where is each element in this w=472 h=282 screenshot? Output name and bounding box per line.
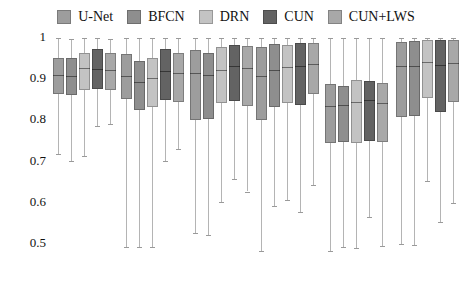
median-line (308, 64, 319, 65)
box-iqr-rect[interactable] (396, 42, 407, 117)
box-drn[interactable] (282, 0, 293, 282)
whisker-cap-lower (232, 179, 237, 180)
whisker-lower (414, 116, 415, 245)
box-group-4 (256, 0, 321, 282)
box-u-net[interactable] (396, 0, 407, 282)
box-u-net[interactable] (190, 0, 201, 282)
median-line (295, 66, 306, 67)
whisker-lower (356, 143, 357, 248)
whisker-cap-upper (272, 38, 277, 39)
box-iqr-rect[interactable] (364, 81, 375, 140)
box-iqr-rect[interactable] (325, 84, 336, 143)
box-bfcn[interactable] (269, 0, 280, 282)
box-cun-lws[interactable] (242, 0, 253, 282)
whisker-cap-upper (298, 38, 303, 39)
box-bfcn[interactable] (66, 0, 77, 282)
whisker-cap-lower (341, 247, 346, 248)
median-line (396, 66, 407, 67)
box-iqr-rect[interactable] (160, 49, 171, 99)
box-iqr-rect[interactable] (242, 46, 253, 106)
whisker-cap-lower (425, 181, 430, 182)
box-drn[interactable] (79, 0, 90, 282)
median-line (147, 78, 158, 79)
box-cun-lws[interactable] (173, 0, 184, 282)
median-line (448, 63, 459, 64)
whisker-cap-lower (193, 233, 198, 234)
box-cun[interactable] (295, 0, 306, 282)
whisker-upper (139, 38, 140, 61)
whisker-cap-upper (367, 38, 372, 39)
box-u-net[interactable] (121, 0, 132, 282)
box-bfcn[interactable] (203, 0, 214, 282)
median-line (422, 62, 433, 63)
whisker-cap-upper (311, 38, 316, 39)
whisker-cap-lower (438, 222, 443, 223)
box-iqr-rect[interactable] (256, 47, 267, 120)
box-iqr-rect[interactable] (338, 86, 349, 142)
box-iqr-rect[interactable] (105, 53, 116, 90)
box-iqr-rect[interactable] (448, 40, 459, 102)
box-iqr-rect[interactable] (269, 44, 280, 107)
median-line (242, 68, 253, 69)
box-iqr-rect[interactable] (282, 45, 293, 103)
box-iqr-rect[interactable] (295, 43, 306, 104)
whisker-cap-upper (412, 38, 417, 39)
box-cun-lws[interactable] (377, 0, 388, 282)
box-cun-lws[interactable] (448, 0, 459, 282)
whisker-lower (208, 119, 209, 234)
box-bfcn[interactable] (409, 0, 420, 282)
whisker-cap-lower (354, 248, 359, 249)
whisker-upper (221, 38, 222, 47)
whisker-cap-lower (285, 200, 290, 201)
whisker-upper (195, 38, 196, 50)
box-iqr-rect[interactable] (216, 47, 227, 103)
box-drn[interactable] (147, 0, 158, 282)
box-iqr-rect[interactable] (190, 50, 201, 120)
whisker-cap-lower (56, 154, 61, 155)
box-u-net[interactable] (325, 0, 336, 282)
box-iqr-rect[interactable] (134, 61, 145, 110)
box-cun[interactable] (92, 0, 103, 282)
whisker-cap-upper (259, 38, 264, 39)
box-cun[interactable] (435, 0, 446, 282)
box-iqr-rect[interactable] (203, 53, 214, 120)
box-iqr-rect[interactable] (351, 80, 362, 143)
box-iqr-rect[interactable] (409, 41, 420, 116)
box-bfcn[interactable] (338, 0, 349, 282)
box-iqr-rect[interactable] (229, 45, 240, 101)
whisker-cap-upper (451, 38, 456, 39)
box-iqr-rect[interactable] (377, 83, 388, 142)
box-u-net[interactable] (256, 0, 267, 282)
box-bfcn[interactable] (134, 0, 145, 282)
whisker-lower (300, 105, 301, 213)
box-iqr-rect[interactable] (422, 40, 433, 98)
median-line (216, 70, 227, 71)
whisker-upper (382, 38, 383, 83)
median-line (203, 75, 214, 76)
box-drn[interactable] (351, 0, 362, 282)
box-u-net[interactable] (53, 0, 64, 282)
box-iqr-rect[interactable] (308, 43, 319, 94)
whisker-lower (126, 99, 127, 247)
whisker-cap-lower (367, 217, 372, 218)
whisker-cap-upper (328, 38, 333, 39)
box-cun-lws[interactable] (308, 0, 319, 282)
whisker-cap-upper (108, 39, 113, 40)
box-cun[interactable] (229, 0, 240, 282)
median-line (282, 67, 293, 68)
whisker-cap-upper (285, 38, 290, 39)
whisker-upper (343, 38, 344, 86)
median-line (160, 71, 171, 72)
box-cun-lws[interactable] (105, 0, 116, 282)
box-iqr-rect[interactable] (79, 53, 90, 90)
box-iqr-rect[interactable] (53, 58, 64, 93)
box-iqr-rect[interactable] (435, 40, 446, 112)
box-iqr-rect[interactable] (147, 58, 158, 107)
box-drn[interactable] (422, 0, 433, 282)
box-iqr-rect[interactable] (173, 53, 184, 102)
box-cun[interactable] (160, 0, 171, 282)
whisker-cap-lower (311, 185, 316, 186)
box-cun[interactable] (364, 0, 375, 282)
median-line (364, 100, 375, 101)
box-drn[interactable] (216, 0, 227, 282)
